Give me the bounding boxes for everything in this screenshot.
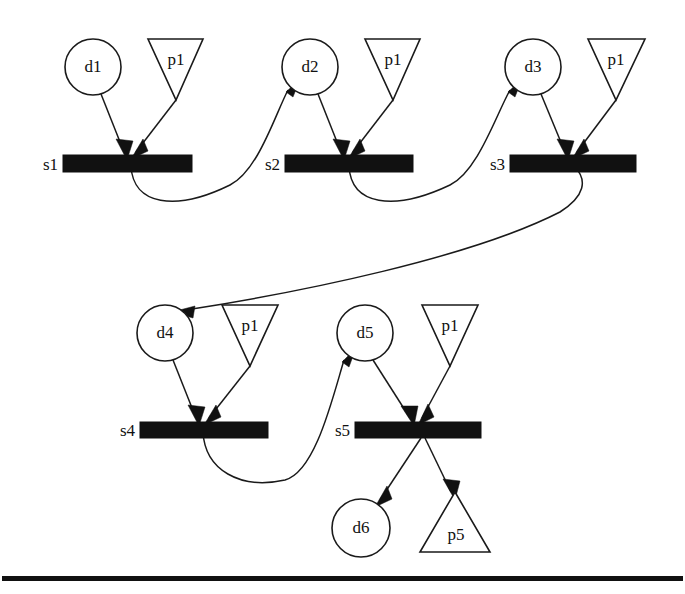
edge-p1-to-s5 bbox=[418, 366, 450, 425]
node-d6[interactable]: d6 bbox=[332, 499, 390, 557]
edge-d4-to-s4 bbox=[173, 360, 205, 426]
place-label: s3 bbox=[490, 155, 505, 174]
node-d2[interactable]: d2 bbox=[282, 39, 338, 95]
place-s1[interactable]: s1 bbox=[43, 155, 192, 174]
node-label: d6 bbox=[353, 518, 370, 537]
node-label: d2 bbox=[302, 57, 319, 76]
place-bar-icon bbox=[140, 422, 268, 438]
node-d3[interactable]: d3 bbox=[505, 39, 561, 95]
edge-d3-to-s3 bbox=[541, 94, 574, 160]
place-label: s5 bbox=[335, 421, 350, 440]
transition-label: p1 bbox=[168, 50, 185, 69]
transition-p1-bottom-mid[interactable]: p1 bbox=[422, 305, 478, 366]
edge-p1-to-s1 bbox=[131, 100, 176, 159]
place-label: s2 bbox=[265, 155, 280, 174]
edge-s5-to-d6 bbox=[375, 438, 421, 507]
place-bar-icon bbox=[285, 155, 413, 172]
triangle-down-icon bbox=[222, 305, 278, 366]
transition-label: p1 bbox=[442, 316, 459, 335]
edge-s2-to-d3 bbox=[349, 79, 522, 201]
transition-p1-top-mid[interactable]: p1 bbox=[365, 39, 420, 100]
place-label: s4 bbox=[120, 421, 136, 440]
edge-p1-to-s3 bbox=[572, 100, 616, 159]
place-bar-icon bbox=[63, 155, 192, 172]
place-s4[interactable]: s4 bbox=[120, 421, 268, 440]
node-label: d5 bbox=[357, 323, 374, 342]
transition-label: p5 bbox=[448, 525, 465, 544]
place-label: s1 bbox=[43, 155, 58, 174]
triangle-down-icon bbox=[148, 39, 203, 100]
petri-net-diagram: p1 p1 p1 p1 p1 p5 d1 d2 bbox=[0, 0, 685, 594]
edge-s5-to-p5 bbox=[425, 438, 460, 500]
transition-label: p1 bbox=[385, 50, 402, 69]
node-label: d4 bbox=[157, 323, 175, 342]
place-bar-icon bbox=[355, 422, 481, 438]
node-d1[interactable]: d1 bbox=[65, 39, 121, 95]
triangle-down-icon bbox=[365, 39, 420, 100]
node-d5[interactable]: d5 bbox=[337, 305, 393, 361]
footer-divider bbox=[2, 576, 683, 581]
place-s2[interactable]: s2 bbox=[265, 155, 413, 174]
edge-s1-to-d2 bbox=[131, 79, 300, 201]
edge-d5-to-s5 bbox=[373, 360, 418, 426]
triangle-down-icon bbox=[588, 39, 645, 100]
edge-s3-to-d4 bbox=[172, 166, 582, 318]
node-d4[interactable]: d4 bbox=[137, 305, 193, 361]
transition-label: p1 bbox=[242, 316, 259, 335]
node-label: d3 bbox=[525, 57, 542, 76]
edge-p1-to-s2 bbox=[348, 100, 393, 159]
transition-p1-top-right[interactable]: p1 bbox=[588, 39, 645, 100]
edge-d1-to-s1 bbox=[101, 94, 133, 160]
place-s3[interactable]: s3 bbox=[490, 155, 636, 174]
transition-p1-bottom-left[interactable]: p1 bbox=[222, 305, 278, 366]
node-label: d1 bbox=[85, 57, 102, 76]
edge-s4-to-d5 bbox=[203, 348, 356, 483]
edge-p1-to-s4 bbox=[204, 366, 250, 425]
place-s5[interactable]: s5 bbox=[335, 421, 481, 440]
transition-label: p1 bbox=[608, 50, 625, 69]
edge-d2-to-s2 bbox=[318, 94, 350, 160]
transition-p1-top-left[interactable]: p1 bbox=[148, 39, 203, 100]
place-bar-icon bbox=[510, 155, 636, 172]
transition-p5[interactable]: p5 bbox=[420, 492, 490, 552]
petri-net-canvas: p1 p1 p1 p1 p1 p5 d1 d2 bbox=[0, 0, 685, 594]
triangle-down-icon bbox=[422, 305, 478, 366]
